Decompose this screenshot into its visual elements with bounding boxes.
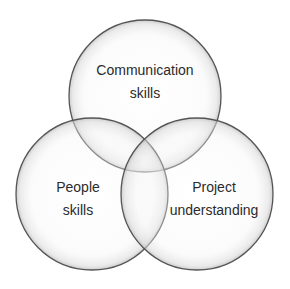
label-people-line2: skills xyxy=(63,202,93,218)
label-communication-line2: skills xyxy=(130,85,160,101)
label-project-line1: Project xyxy=(192,179,236,195)
label-communication-line1: Communication xyxy=(96,62,193,78)
label-people-line1: People xyxy=(56,179,100,195)
label-project-line2: understanding xyxy=(170,202,259,218)
circles xyxy=(16,20,273,270)
venn-diagram: Communication skills People skills Proje… xyxy=(0,0,290,289)
